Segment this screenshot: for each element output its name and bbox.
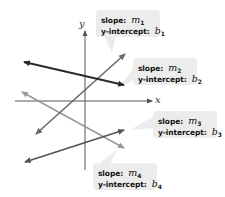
- y-axis-label: y: [79, 19, 85, 29]
- slope-row: slope: m3: [158, 114, 212, 125]
- callout-line-4: slope: m4 y-intercept: b4: [93, 163, 157, 190]
- slope-subscript: 3: [197, 120, 201, 127]
- line-2: [36, 54, 125, 134]
- callout-3-tail: [130, 116, 154, 130]
- intercept-subscript: 4: [158, 183, 162, 190]
- intercept-keyword: y-intercept:: [101, 27, 150, 36]
- intercept-variable: b: [152, 178, 158, 189]
- intercept-row: y-intercept: b4: [98, 177, 152, 188]
- intercept-row: y-intercept: b2: [138, 72, 192, 83]
- callout-tails: [98, 36, 154, 164]
- slope-row: slope: m4: [98, 166, 152, 177]
- line-1: [24, 62, 124, 85]
- intercept-row: y-intercept: b1: [101, 24, 155, 35]
- callout-4-tail: [98, 150, 117, 164]
- callout-line-2: slope: m2 y-intercept: b2: [133, 58, 197, 85]
- intercept-keyword: y-intercept:: [158, 128, 207, 137]
- intercept-subscript: 1: [161, 30, 165, 37]
- slope-subscript: 4: [137, 172, 141, 179]
- x-axis-label: x: [155, 95, 161, 105]
- intercept-subscript: 3: [218, 131, 222, 138]
- slope-row: slope: m1: [101, 13, 155, 24]
- intercept-variable: b: [155, 25, 161, 36]
- callout-line-3: slope: m3 y-intercept: b3: [153, 111, 217, 138]
- intercept-keyword: y-intercept:: [98, 180, 147, 189]
- intercept-variable: b: [212, 126, 218, 137]
- callout-line-1: slope: m1 y-intercept: b1: [96, 10, 160, 37]
- slope-row: slope: m2: [138, 61, 192, 72]
- intercept-row: y-intercept: b3: [158, 125, 212, 136]
- slope-subscript: 1: [140, 19, 144, 26]
- slope-subscript: 2: [177, 67, 181, 74]
- intercept-variable: b: [192, 73, 198, 84]
- callout-1-tail: [104, 36, 116, 53]
- intercept-subscript: 2: [198, 78, 202, 85]
- intercept-keyword: y-intercept:: [138, 75, 187, 84]
